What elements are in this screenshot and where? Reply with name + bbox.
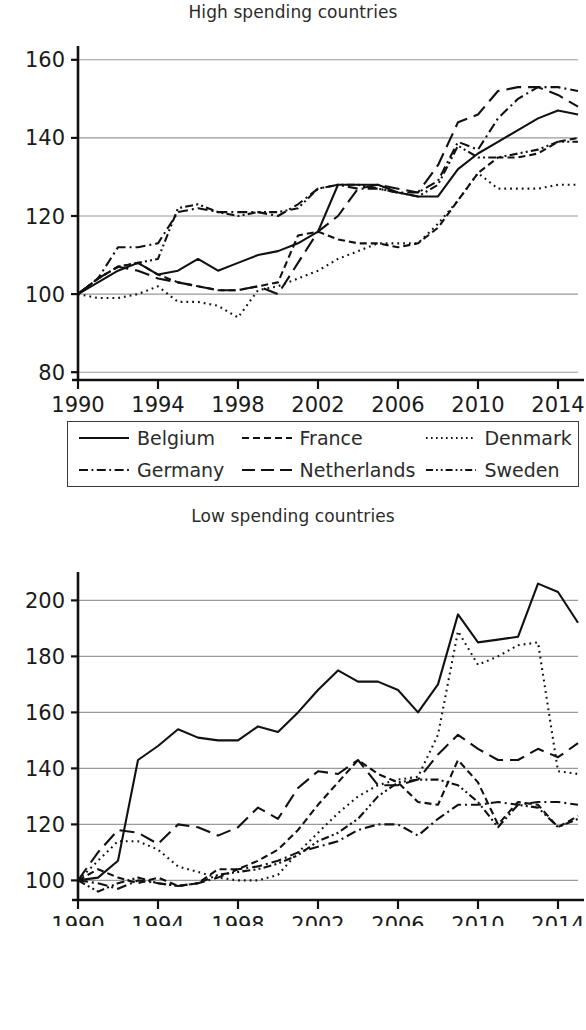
figure-root: High spending countries 8010012014016019…	[0, 0, 586, 1030]
y-tick-label-180: 180	[25, 645, 65, 669]
y-tick-label-80: 80	[38, 361, 65, 385]
series-line-italy	[78, 780, 578, 892]
series-line-luxembourg	[78, 802, 578, 889]
legend-swatch-france	[241, 431, 293, 445]
legend-item-denmark[interactable]: Denmark	[415, 429, 578, 448]
plot-area-low-spending: 1001201401601802001990199419982002200620…	[0, 526, 586, 926]
legend-swatch-sweden	[425, 463, 477, 477]
legend-item-sweden[interactable]: Sweden	[415, 461, 578, 480]
series-line-denmark	[78, 173, 578, 317]
legend-swatch-germany	[78, 463, 130, 477]
legend-swatch-netherlands	[241, 463, 293, 477]
x-tick-label-2014: 2014	[531, 913, 584, 926]
series-line-germany	[78, 87, 578, 294]
legend-label-netherlands: Netherlands	[300, 461, 416, 480]
series-line-netherlands	[78, 87, 578, 294]
chart-title-low-spending: Low spending countries	[0, 500, 586, 526]
y-tick-label-140: 140	[25, 757, 65, 781]
x-tick-label-2014: 2014	[531, 393, 584, 417]
chart-panel-high-spending: High spending countries 8010012014016019…	[0, 0, 586, 500]
legend-label-denmark: Denmark	[484, 429, 571, 448]
y-tick-label-140: 140	[25, 126, 65, 150]
y-tick-label-100: 100	[25, 283, 65, 307]
y-tick-label-160: 160	[25, 701, 65, 725]
y-tick-label-200: 200	[25, 589, 65, 613]
x-tick-label-2006: 2006	[371, 913, 424, 926]
legend-item-france[interactable]: France	[231, 429, 416, 448]
y-tick-label-120: 120	[25, 813, 65, 837]
x-tick-label-1994: 1994	[131, 913, 184, 926]
legend-label-germany: Germany	[137, 461, 224, 480]
x-tick-label-2002: 2002	[291, 393, 344, 417]
legend-item-germany[interactable]: Germany	[68, 461, 231, 480]
chart-title-high-spending: High spending countries	[0, 0, 586, 22]
x-tick-label-2002: 2002	[291, 913, 344, 926]
y-tick-label-120: 120	[25, 205, 65, 229]
plot-area-high-spending: 8010012014016019901994199820022006201020…	[0, 22, 586, 422]
legend-high-spending: Belgium France Denmark	[67, 421, 579, 487]
x-tick-label-1998: 1998	[211, 393, 264, 417]
series-line-poland	[78, 735, 578, 881]
x-tick-label-1990: 1990	[51, 913, 104, 926]
legend-label-france: France	[300, 429, 363, 448]
y-tick-label-100: 100	[25, 869, 65, 893]
line-chart-high-spending: 8010012014016019901994199820022006201020…	[0, 22, 586, 422]
legend-label-sweden: Sweden	[484, 461, 559, 480]
legend-swatch-denmark	[425, 431, 477, 445]
legend-label-belgium: Belgium	[137, 429, 215, 448]
x-tick-label-1990: 1990	[51, 393, 104, 417]
chart-panel-low-spending: Low spending countries 10012014016018020…	[0, 500, 586, 1030]
x-tick-label-2010: 2010	[451, 913, 504, 926]
series-line-ireland	[78, 631, 578, 880]
y-tick-label-160: 160	[25, 48, 65, 72]
legend-item-belgium[interactable]: Belgium	[68, 429, 231, 448]
legend-swatch-belgium	[78, 431, 130, 445]
x-tick-label-2006: 2006	[371, 393, 424, 417]
x-tick-label-1994: 1994	[131, 393, 184, 417]
x-tick-label-2010: 2010	[451, 393, 504, 417]
legend-item-netherlands[interactable]: Netherlands	[231, 461, 416, 480]
line-chart-low-spending: 1001201401601802001990199419982002200620…	[0, 526, 586, 926]
x-tick-label-1998: 1998	[211, 913, 264, 926]
